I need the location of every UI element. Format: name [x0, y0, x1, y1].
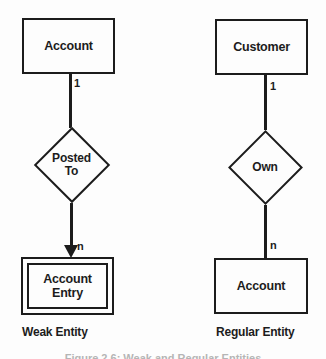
relationship-posted-to: Posted To: [33, 127, 110, 203]
entity-box-account: Account: [22, 18, 115, 74]
entity-account-label: Account: [44, 39, 93, 53]
relationship-posted-to-label: Posted To: [33, 127, 110, 203]
cardinality-one-regular: 1: [270, 80, 276, 92]
cardinality-one-weak: 1: [74, 77, 80, 89]
entity-account-entry-label-line1: Account: [43, 272, 92, 286]
weak-entity-box-account-entry: Account Entry: [21, 257, 114, 315]
er-notation-diagram: Account 1 Posted To n Account Entry Weak…: [0, 0, 326, 359]
entity-account-regular-label: Account: [237, 279, 286, 293]
weak-entity-inner-border: Account Entry: [27, 263, 108, 309]
relationship-label-line2: To: [65, 165, 78, 178]
figure-caption-clipped: Figure 2.6: Weak and Regular Entities: [40, 352, 286, 359]
entity-customer-label: Customer: [233, 40, 290, 54]
entity-box-customer: Customer: [215, 19, 308, 75]
entity-box-account-regular: Account: [214, 258, 308, 314]
connector-own-account: [264, 205, 267, 258]
connector-postedto-accountentry: [70, 203, 73, 249]
relationship-own: Own: [227, 130, 303, 205]
connector-customer-own: [264, 75, 267, 130]
relationship-label: Own: [252, 161, 277, 174]
weak-entity-caption: Weak Entity: [22, 325, 88, 339]
relationship-own-label: Own: [227, 130, 303, 205]
connector-account-postedto: [69, 74, 72, 128]
cardinality-many-weak: n: [77, 240, 84, 252]
entity-account-entry-label-line2: Entry: [52, 286, 83, 300]
cardinality-many-regular: n: [270, 239, 277, 251]
regular-entity-caption: Regular Entity: [216, 325, 295, 339]
